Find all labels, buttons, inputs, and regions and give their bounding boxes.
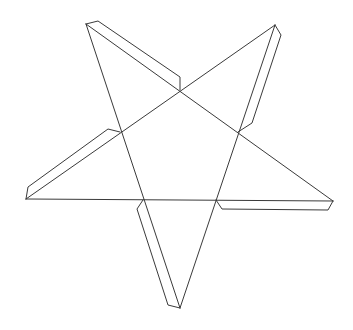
glue-tab-right	[216, 200, 333, 210]
star-line-topright-to-left	[26, 25, 275, 199]
glue-tab-bottom	[137, 200, 180, 308]
star-outline	[26, 24, 333, 308]
star-line-left-to-right	[26, 199, 333, 201]
star-line-topleft-to-bottom	[86, 24, 180, 308]
glue-tab-top-left	[86, 21, 180, 90]
star-net-diagram	[0, 0, 353, 330]
glue-tab-left	[26, 129, 120, 199]
star-line-topright-to-bottom	[180, 25, 275, 308]
glue-tabs	[26, 21, 333, 308]
star-line-topleft-to-right	[86, 24, 333, 201]
